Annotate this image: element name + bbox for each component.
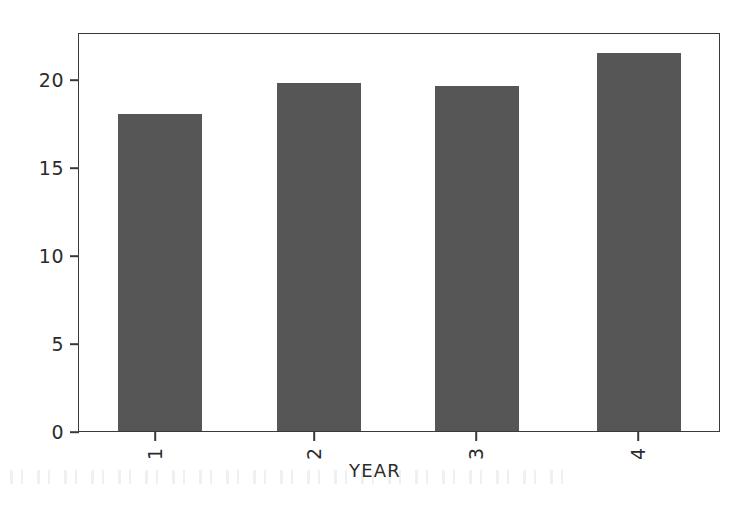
x-tick-label-4: 4 — [629, 448, 648, 460]
bar-year-1 — [118, 114, 202, 431]
y-tick-label-0: 0 — [51, 423, 64, 442]
x-tick-mark-4 — [637, 432, 639, 441]
plot-area — [78, 33, 720, 432]
x-tick-label-2: 2 — [305, 448, 324, 460]
y-axis-tick-labels: 0 5 10 15 20 — [0, 0, 64, 507]
bar-year-2 — [277, 83, 361, 431]
y-tick-label-5: 5 — [51, 335, 64, 354]
x-tick-label-3: 3 — [467, 448, 486, 460]
x-tick-mark-3 — [475, 432, 477, 441]
y-tick-label-15: 15 — [39, 159, 64, 178]
y-tick-label-10: 10 — [39, 247, 64, 266]
bar-year-3 — [435, 86, 519, 431]
x-tick-label-1: 1 — [146, 448, 165, 460]
bar-year-4 — [597, 53, 681, 431]
bar-chart-figure: 0 5 10 15 20 1 2 3 4 YEAR — [0, 0, 750, 507]
x-tick-mark-2 — [313, 432, 315, 441]
scan-artifact — [10, 470, 570, 484]
x-tick-mark-1 — [154, 432, 156, 441]
y-tick-label-20: 20 — [39, 71, 64, 90]
